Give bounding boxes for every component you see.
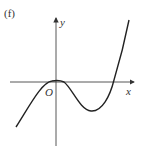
graph: (f) y x O <box>0 0 146 159</box>
diagram: (f) y x O <box>0 0 146 159</box>
x-axis-label: x <box>125 85 131 97</box>
y-axis-label: y <box>59 16 65 28</box>
figure-label: (f) <box>4 7 15 20</box>
origin-label: O <box>45 86 53 98</box>
cubic-curve <box>16 20 129 127</box>
